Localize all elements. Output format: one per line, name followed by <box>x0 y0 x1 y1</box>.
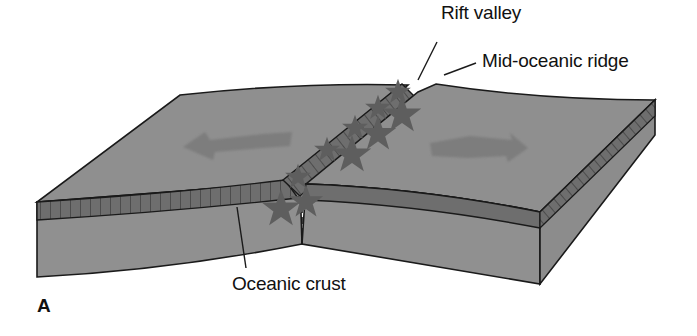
label-rift-valley: Rift valley <box>441 2 521 24</box>
ridge-leader <box>444 63 476 75</box>
panel-letter: A <box>37 295 51 317</box>
label-mid-oceanic-ridge: Mid-oceanic ridge <box>482 50 629 72</box>
rift-valley-leader <box>418 42 437 80</box>
label-oceanic-crust: Oceanic crust <box>232 273 346 295</box>
